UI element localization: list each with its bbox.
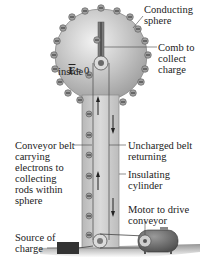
motor — [138, 227, 178, 254]
top-pulley — [94, 56, 108, 70]
label-inside: inside — [58, 66, 83, 77]
label-source: Source of charge — [15, 232, 56, 254]
van-de-graaff-diagram: Conducting sphere Comb to collect charge… — [0, 0, 207, 269]
label-comb: Comb to collect charge — [158, 42, 194, 75]
diagram-graphic — [0, 0, 207, 269]
label-conducting-sphere: Conducting sphere — [144, 4, 193, 26]
label-motor: Motor to drive conveyor — [128, 204, 189, 226]
label-uncharged-belt: Uncharged belt returning — [128, 140, 192, 162]
label-conveyor-belt: Conveyor belt carrying electrons to coll… — [15, 140, 75, 206]
label-insulating-cylinder: Insulating cylinder — [128, 169, 170, 191]
bottom-pulley — [93, 234, 107, 248]
